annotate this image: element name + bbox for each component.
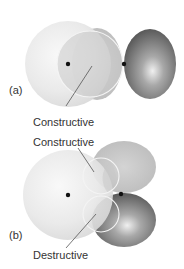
annotation-constructive-a: Constructive [33, 116, 94, 128]
orbital-overlap-diagram [0, 0, 184, 269]
p-orbital-dark-lobe [124, 29, 176, 99]
panel-b [23, 141, 156, 248]
panel-label-a: (a) [9, 84, 22, 96]
nucleus-s [66, 62, 70, 66]
nucleus-p [122, 62, 126, 66]
annotation-constructive-b: Constructive [33, 136, 94, 148]
panel-a [25, 21, 176, 107]
panel-label-b: (b) [9, 229, 22, 241]
nucleus-p [119, 192, 123, 196]
nucleus-s [66, 193, 70, 197]
annotation-destructive-b: Destructive [33, 249, 88, 261]
